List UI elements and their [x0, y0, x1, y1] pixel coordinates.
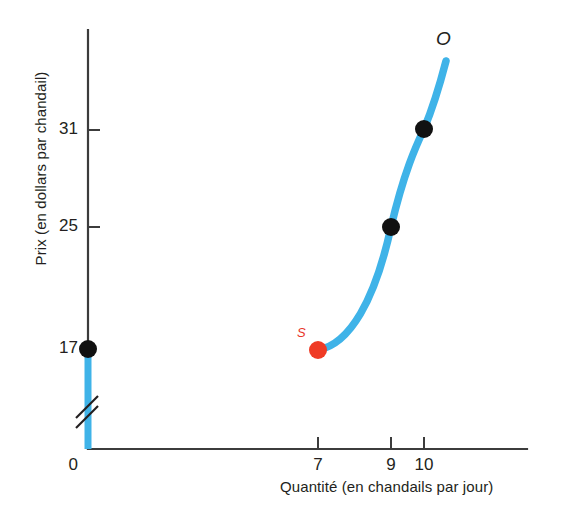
annotation-label-o: O	[436, 28, 451, 50]
y-tick-label-0: 0	[44, 455, 78, 475]
data-point-S	[309, 341, 327, 359]
supply-curve-chart: Prix (en dollars par chandail) Quantité …	[0, 0, 567, 519]
y-tick-label-17: 17	[30, 338, 78, 358]
data-point-17	[79, 340, 97, 358]
data-point-25	[382, 218, 400, 236]
annotation-label-s: S	[297, 325, 306, 340]
y-tick-label-31: 31	[30, 119, 78, 139]
chart-canvas	[0, 0, 567, 519]
x-axis-title: Quantité (en chandails par jour)	[280, 478, 493, 495]
data-point-31	[415, 120, 433, 138]
x-tick-label-10: 10	[404, 455, 444, 475]
x-tick-label-7: 7	[298, 455, 338, 475]
supply-curve	[318, 61, 446, 350]
y-tick-label-25: 25	[30, 216, 78, 236]
y-axis-title: Prix (en dollars par chandail)	[32, 54, 49, 284]
